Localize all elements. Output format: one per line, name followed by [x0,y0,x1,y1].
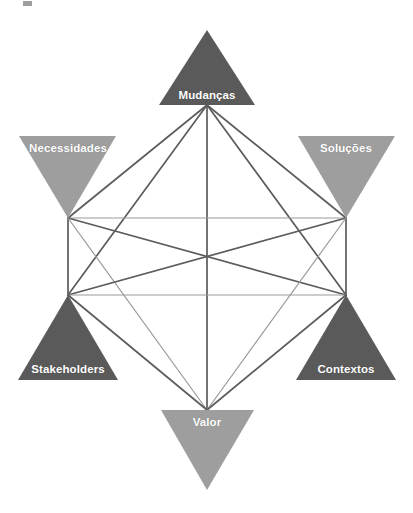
connector-line-necessidades-valor [68,218,207,410]
connector-line-solucoes-valor [207,218,346,410]
node-triangle-stakeholders[interactable] [18,295,118,380]
node-triangle-solucoes[interactable] [298,136,395,218]
edge-layer [68,105,346,410]
diagram-canvas: MudançasNecessidadesSoluçõesStakeholders… [0,0,413,513]
node-triangle-necessidades[interactable] [19,136,116,218]
node-triangle-valor[interactable] [161,410,254,490]
node-triangle-contextos[interactable] [296,295,396,380]
hexagram-diagram [0,0,413,513]
node-triangle-mudancas[interactable] [159,30,255,105]
